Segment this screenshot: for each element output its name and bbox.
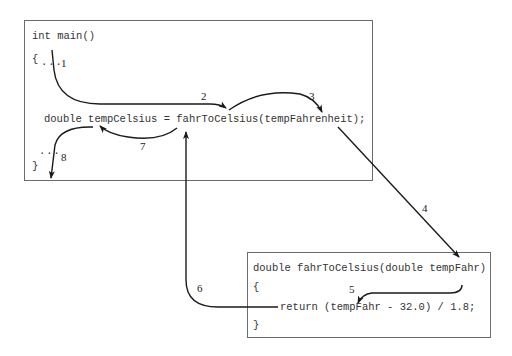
step-label-4: 4 (422, 203, 428, 214)
arrow-step-7 (100, 126, 177, 138)
flow-arrows (0, 0, 512, 356)
arrow-step-4 (338, 127, 459, 257)
step-label-2: 2 (201, 91, 207, 102)
step-label-5: 5 (349, 284, 355, 295)
step-label-7: 7 (140, 141, 146, 152)
arrow-step-5 (358, 285, 462, 303)
step-label-1: 1 (61, 58, 67, 69)
step-label-8: 8 (61, 152, 67, 163)
arrow-step-2 (52, 50, 226, 108)
arrow-step-6 (186, 132, 278, 307)
step-label-3: 3 (309, 91, 315, 102)
step-label-6: 6 (197, 283, 203, 294)
arrow-step-8 (51, 127, 93, 178)
